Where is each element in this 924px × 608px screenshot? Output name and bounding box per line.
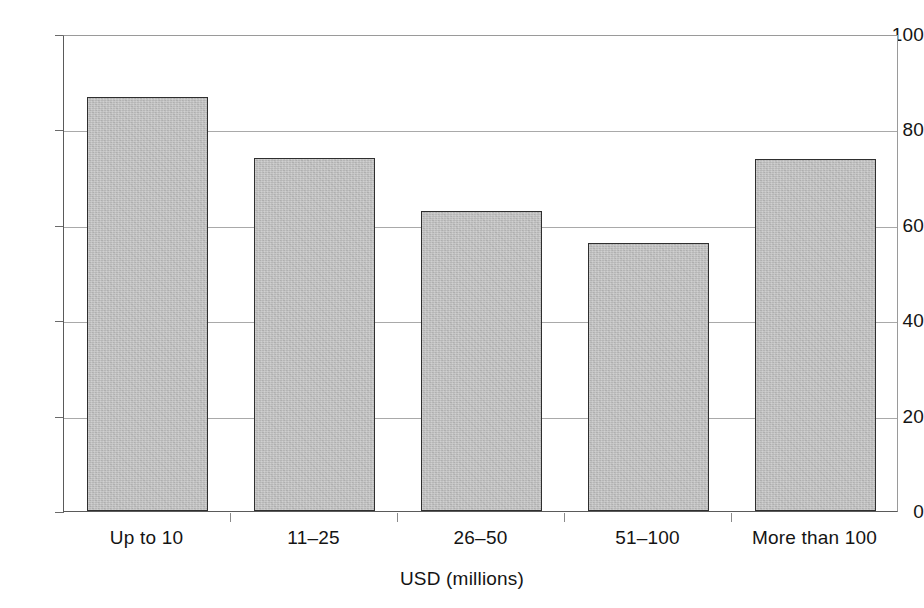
- bar-3: [588, 243, 709, 511]
- x-tick-mark-1: [397, 513, 398, 522]
- x-tick-mark-2: [564, 513, 565, 522]
- plot-area: [63, 35, 898, 512]
- bar-2: [421, 211, 542, 511]
- bar-chart: 020406080100 Up to 1011–2526–5051–100Mor…: [0, 0, 924, 608]
- x-tick-mark-3: [731, 513, 732, 522]
- x-tick-mark-0: [230, 513, 231, 522]
- y-tick-mark-0: [55, 512, 64, 513]
- x-axis-title: USD (millions): [0, 568, 924, 590]
- bar-4: [755, 159, 876, 511]
- bar-0: [87, 97, 208, 511]
- x-category-label-4: More than 100: [705, 527, 924, 549]
- bar-1: [254, 158, 375, 511]
